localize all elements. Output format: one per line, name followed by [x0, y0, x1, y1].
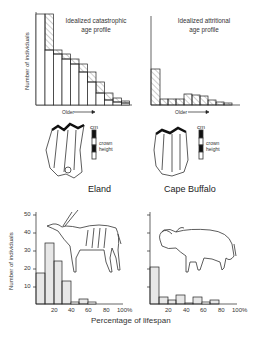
catastrophic-title: Idealized catastrophic age profile	[56, 16, 136, 34]
older-label-right: Older	[175, 109, 187, 115]
eland-tooth-drawing	[46, 124, 96, 178]
buffalo-scale-unit: cm	[197, 124, 205, 130]
species-label-buffalo: Cape Buffalo	[164, 184, 216, 194]
title-line: age profile	[164, 25, 244, 34]
title-line: age profile	[56, 25, 136, 34]
eland-scale-unit: cm	[90, 124, 98, 130]
xtick: 60	[200, 307, 207, 313]
xtick: 40	[68, 307, 75, 313]
buffalo-tooth-drawing	[154, 128, 203, 176]
eland-scale-label: crown height	[99, 140, 113, 152]
title-line: Idealized attritional	[164, 16, 244, 25]
xtick: 40	[183, 307, 190, 313]
figure-graphics	[0, 0, 258, 342]
buffalo-drawing	[160, 228, 237, 273]
xtick: 80	[218, 307, 225, 313]
xtick: 60	[85, 307, 92, 313]
ytick: 10	[24, 283, 31, 289]
bottom-x-axis-label: Percentage of lifespan	[91, 316, 171, 325]
top-y-axis-label: Number of individuals	[24, 32, 30, 90]
ytick: 40	[24, 229, 31, 235]
xtick: 20	[165, 307, 172, 313]
ytick: 50	[24, 211, 31, 217]
bottom-y-axis-label: Number of individuals	[8, 232, 14, 290]
species-label-eland: Eland	[88, 184, 111, 194]
xtick: 100%	[117, 307, 132, 313]
scale-label-line: height	[206, 146, 220, 152]
scale-label-line: height	[99, 146, 113, 152]
ytick: 20	[24, 265, 31, 271]
ytick: 30	[24, 247, 31, 253]
buffalo-scale-label: crown height	[206, 140, 220, 152]
older-label-left: Older	[62, 109, 74, 115]
xtick: 100%	[232, 307, 247, 313]
attritional-title: Idealized attritional age profile	[164, 16, 244, 34]
xtick: 20	[51, 307, 58, 313]
xtick: 80	[103, 307, 110, 313]
title-line: Idealized catastrophic	[56, 16, 136, 25]
